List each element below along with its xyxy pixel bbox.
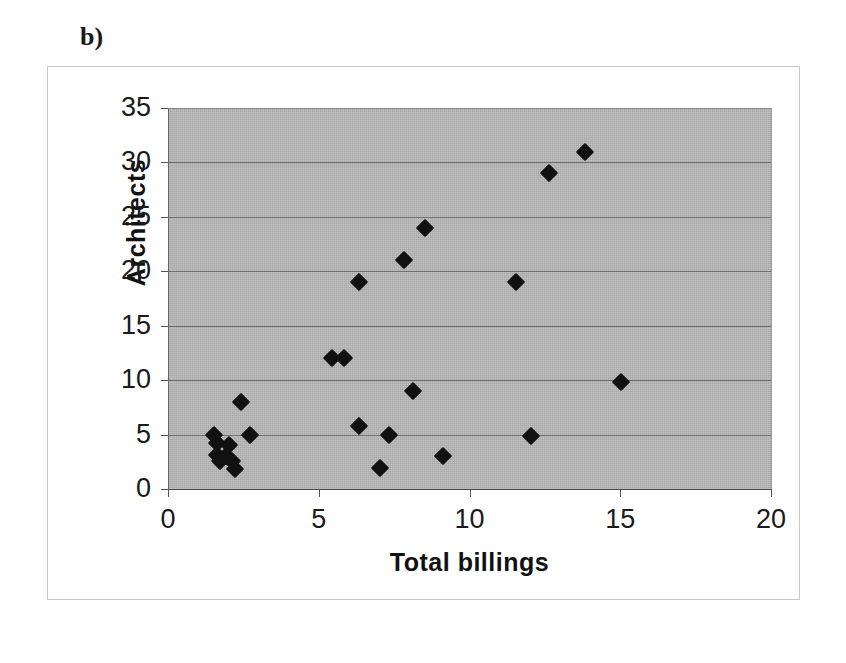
x-axis-tick	[470, 490, 471, 497]
data-point-marker	[612, 373, 630, 391]
x-axis-title: Total billings	[168, 548, 771, 577]
y-axis-tick-label: 15	[31, 312, 151, 339]
y-axis-tick	[161, 162, 168, 163]
data-point-marker	[434, 447, 452, 465]
plot-area	[168, 108, 772, 490]
data-point-marker	[350, 417, 368, 435]
y-axis-tick-label: 30	[31, 148, 151, 175]
x-axis-tick-label: 20	[756, 506, 786, 533]
data-point-marker	[335, 349, 353, 367]
data-point-marker	[241, 425, 259, 443]
data-point-marker	[507, 273, 525, 291]
data-point-marker	[540, 164, 558, 182]
x-axis-tick-label: 0	[160, 506, 175, 533]
y-axis-tick-label: 25	[31, 203, 151, 230]
data-point-marker	[576, 142, 594, 160]
y-axis-tick-label: 10	[31, 366, 151, 393]
x-axis-tick	[620, 490, 621, 497]
data-point-marker	[371, 459, 389, 477]
data-point-marker	[395, 251, 413, 269]
x-axis-tick	[319, 490, 320, 497]
gridline-horizontal	[169, 271, 772, 272]
y-axis-tick	[161, 380, 168, 381]
gridline-horizontal	[169, 435, 772, 436]
y-axis-tick-label: 20	[31, 257, 151, 284]
data-point-marker	[380, 425, 398, 443]
y-axis-tick	[161, 108, 168, 109]
gridline-horizontal	[169, 162, 772, 163]
data-point-marker	[522, 426, 540, 444]
gridline-horizontal	[169, 380, 772, 381]
plot-top-border	[168, 108, 772, 109]
plot-background-texture	[169, 108, 772, 489]
y-axis-tick	[161, 489, 168, 490]
x-axis-tick-label: 5	[311, 506, 326, 533]
data-point-marker	[404, 382, 422, 400]
y-axis-tick-label: 0	[31, 475, 151, 502]
y-axis-tick	[161, 271, 168, 272]
plot-right-border	[771, 108, 772, 489]
gridline-horizontal	[169, 326, 772, 327]
panel-label: b)	[80, 22, 103, 52]
data-point-marker	[232, 393, 250, 411]
x-axis-tick	[771, 490, 772, 497]
y-axis-tick	[161, 326, 168, 327]
y-axis-tick	[161, 217, 168, 218]
x-axis-tick-label: 10	[454, 506, 484, 533]
y-axis-tick	[161, 435, 168, 436]
y-axis-tick-label: 35	[31, 94, 151, 121]
x-axis-tick-label: 15	[605, 506, 635, 533]
x-axis-tick	[168, 490, 169, 497]
data-point-marker	[350, 273, 368, 291]
y-axis-tick-label: 5	[31, 421, 151, 448]
gridline-horizontal	[169, 217, 772, 218]
data-point-marker	[416, 219, 434, 237]
